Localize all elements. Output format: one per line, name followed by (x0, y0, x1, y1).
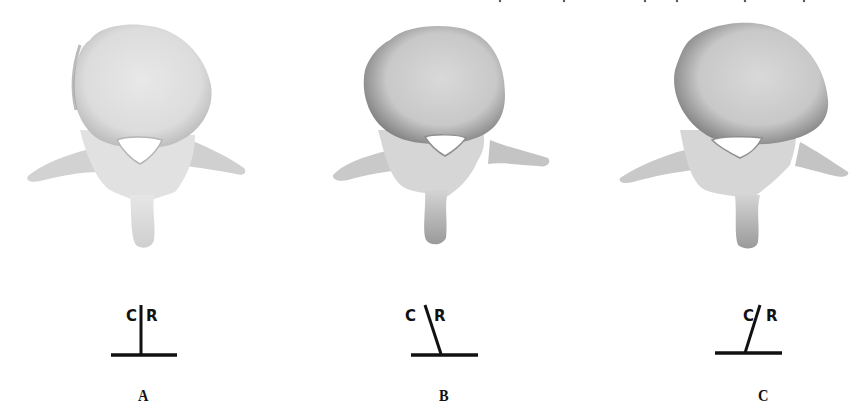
diagram-b-c-letter: C (405, 307, 416, 325)
figure: C R C R C R A B C (0, 0, 865, 418)
panel-label-c: C (758, 386, 768, 406)
vertebra-image-c (620, 23, 849, 249)
cr-diagram-c: C R (715, 305, 782, 353)
diagram-a-r-letter: R (146, 307, 158, 325)
cr-diagram-a: C R (111, 305, 177, 355)
cr-diagram-b: C R (405, 305, 478, 355)
figure-canvas: C R C R C R (0, 0, 865, 418)
vertebra-image-b (333, 26, 549, 244)
diagram-b-r-letter: R (434, 307, 446, 325)
vertebra-image-a (27, 24, 245, 247)
diagram-a-c-letter: C (126, 307, 137, 325)
diagram-c-r-letter: R (766, 307, 778, 325)
panel-label-a: A (138, 386, 148, 406)
diagram-c-c-letter: C (743, 307, 754, 325)
panel-label-b: B (439, 386, 449, 406)
